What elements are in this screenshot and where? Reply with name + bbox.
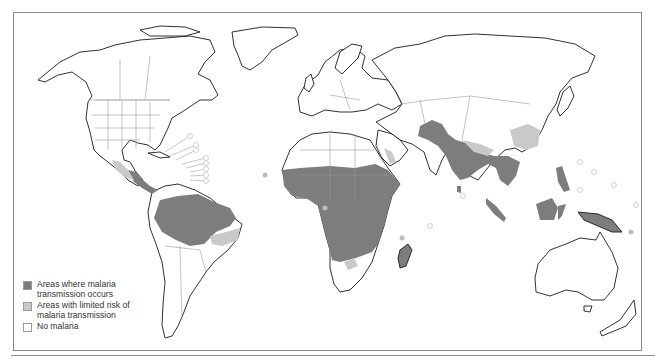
sri-lanka (457, 186, 461, 193)
legend-label: Areas where malaria transmission occurs (37, 280, 147, 299)
north-america (38, 36, 218, 186)
sulawesi (558, 204, 566, 220)
subsaharan-transmission (282, 164, 400, 262)
legend-item-transmission: Areas where malaria transmission occurs (23, 280, 147, 299)
borneo (536, 198, 558, 220)
legend-label: No malaria (37, 322, 147, 332)
tasmania (584, 306, 592, 312)
arctic-islands (140, 26, 200, 36)
legend-label: Areas with limited risk of malaria trans… (37, 301, 147, 320)
swatch-transmission (23, 281, 32, 290)
sumatra (486, 198, 506, 222)
legend-item-limited-risk: Areas with limited risk of malaria trans… (23, 301, 147, 320)
cuba (148, 152, 170, 158)
legend-item-no-malaria: No malaria (23, 322, 147, 332)
swatch-limited-risk (23, 302, 32, 311)
swatch-no-malaria (23, 323, 32, 332)
australia (535, 232, 618, 300)
greenland (232, 27, 298, 70)
philippines (556, 166, 570, 192)
caribbean-callouts (165, 134, 209, 184)
new-zealand (600, 300, 636, 336)
map-legend: Areas where malaria transmission occurs … (23, 280, 147, 334)
